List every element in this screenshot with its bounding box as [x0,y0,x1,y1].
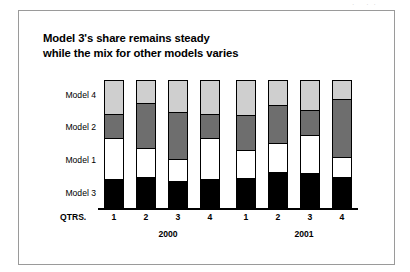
bar-segment-model-2 [268,105,288,144]
bar-segment-model-2 [236,115,256,150]
chart-page: · ·· Model 3's share remains steady whil… [0,0,410,272]
chart-title-line-2: while the mix for other models varies [43,46,343,61]
bar-segment-model-4 [300,80,320,110]
bar-segment-model-2 [136,103,156,148]
bar-segment-model-4 [168,80,188,112]
bar-2001-q4 [332,80,352,209]
bar-segment-model-3 [332,177,352,209]
x-axis-tick-6: 2 [268,212,288,222]
bar-segment-model-2 [200,114,220,139]
plot-area [104,80,352,209]
bar-segment-model-2 [332,99,352,157]
x-axis-year-label-2000: 2000 [138,229,198,239]
bar-segment-model-1 [236,150,256,178]
bar-2001-q1 [236,80,256,209]
bar-segment-model-3 [236,178,256,209]
x-axis-tick-5: 1 [236,212,256,222]
bar-segment-model-3 [168,181,188,209]
bar-segment-model-3 [300,173,320,209]
bar-segment-model-4 [332,80,352,99]
x-axis-tick-8: 4 [332,212,352,222]
bar-segment-model-3 [200,179,220,209]
x-axis-tick-7: 3 [300,212,320,222]
bar-2000-q4 [200,80,220,209]
x-axis-tick-1: 1 [104,212,124,222]
y-axis-label-1: Model 4 [38,90,96,100]
bar-segment-model-3 [104,179,124,209]
bar-2000-q3 [168,80,188,209]
bar-segment-model-1 [168,159,188,181]
chart-title-line-1: Model 3's share remains steady [43,31,343,46]
scan-artifact-marks: · ·· [352,1,392,9]
bar-2000-q1 [104,80,124,209]
x-axis-prefix-label: QTRS. [60,212,86,222]
bar-segment-model-1 [300,135,320,172]
bar-2001-q3 [300,80,320,209]
bar-segment-model-2 [300,110,320,136]
bar-segment-model-1 [104,138,124,179]
bar-segment-model-4 [268,80,288,105]
bar-segment-model-4 [136,80,156,103]
bar-segment-model-1 [332,157,352,176]
bar-segment-model-4 [104,80,124,114]
bar-segment-model-4 [200,80,220,114]
y-axis-label-2: Model 2 [38,122,96,132]
x-axis-year-label-2001: 2001 [274,229,334,239]
bar-segment-model-3 [136,177,156,209]
chart-title: Model 3's share remains steady while the… [43,31,343,60]
bar-segment-model-1 [268,143,288,171]
x-axis-baseline [98,208,358,210]
x-axis-tick-3: 3 [168,212,188,222]
bar-2001-q2 [268,80,288,209]
y-axis-label-3: Model 1 [38,155,96,165]
bar-segment-model-1 [200,138,220,179]
bar-segment-model-2 [168,112,188,158]
x-axis-tick-2: 2 [136,212,156,222]
bar-2000-q2 [136,80,156,209]
y-axis-label-4: Model 3 [38,188,96,198]
bar-segment-model-3 [268,172,288,209]
bar-segment-model-4 [236,80,256,115]
bar-segment-model-2 [104,114,124,139]
bar-segment-model-1 [136,148,156,176]
x-axis-tick-4: 4 [200,212,220,222]
